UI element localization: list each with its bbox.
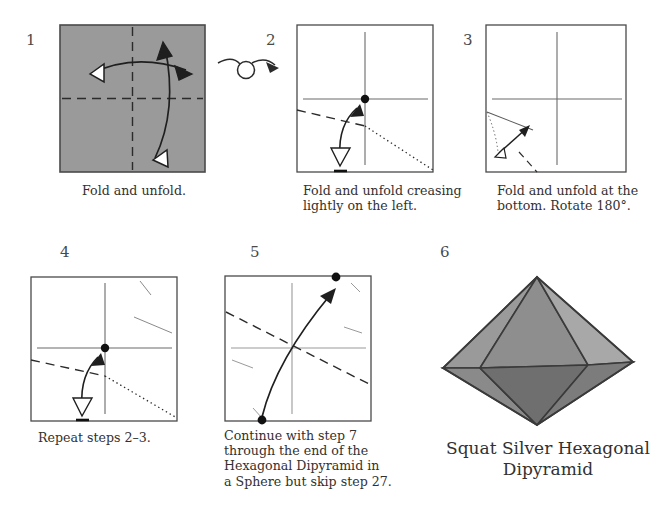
origami-instruction-page: 1 Fold and unfold. 2 Fold and	[0, 0, 667, 517]
model-caption: Squat Silver Hexagonal Dipyramid	[432, 438, 664, 480]
